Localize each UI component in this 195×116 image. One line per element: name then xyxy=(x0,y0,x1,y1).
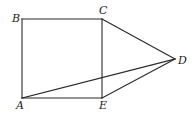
segment-ed xyxy=(102,59,175,98)
point-label-c: C xyxy=(99,4,108,17)
segment-ad xyxy=(22,59,175,98)
point-label-b: B xyxy=(11,12,20,25)
geometry-diagram: A B C D E xyxy=(0,0,195,116)
labels-group: A B C D E xyxy=(11,4,187,112)
point-label-a: A xyxy=(15,99,24,112)
point-label-d: D xyxy=(177,54,187,67)
segments-group xyxy=(22,19,175,98)
point-label-e: E xyxy=(98,99,107,112)
segment-cd xyxy=(102,19,175,59)
